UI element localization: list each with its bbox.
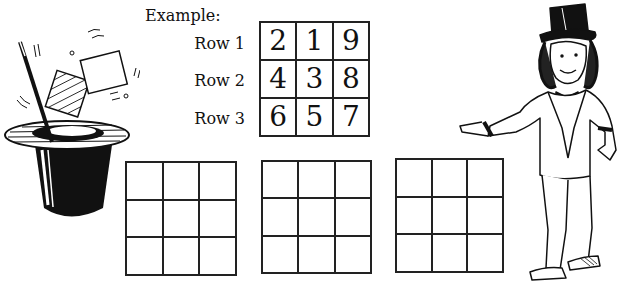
grid-cell[interactable] — [298, 161, 334, 198]
magic-hat-wand-cards-icon — [0, 20, 140, 225]
example-cell: 9 — [333, 22, 369, 60]
example-grid: 2 1 9 4 3 8 6 5 7 — [259, 21, 370, 137]
grid-cell[interactable] — [199, 200, 236, 238]
grid-cell[interactable] — [126, 200, 163, 238]
grid-cell[interactable] — [163, 200, 200, 238]
grid-cell[interactable] — [298, 236, 334, 273]
grid-cell[interactable] — [335, 161, 371, 198]
grid-cell[interactable] — [262, 198, 298, 235]
grid-cell[interactable] — [335, 236, 371, 273]
example-cell: 8 — [333, 60, 369, 98]
grid-cell[interactable] — [199, 237, 236, 275]
grid-cell[interactable] — [396, 234, 432, 272]
grid-cell[interactable] — [262, 161, 298, 198]
magician-top-hat-tuxedo-icon — [455, 0, 619, 287]
example-cell: 4 — [260, 60, 296, 98]
empty-grid-1 — [125, 161, 237, 276]
example-label: Example: — [145, 6, 221, 25]
example-cell: 3 — [296, 60, 332, 98]
example-cell: 6 — [260, 98, 296, 136]
empty-grid-2 — [261, 160, 372, 274]
row-label-3: Row 3 — [185, 109, 245, 128]
grid-cell[interactable] — [126, 162, 163, 200]
grid-cell[interactable] — [335, 198, 371, 235]
grid-cell[interactable] — [396, 197, 432, 235]
grid-cell[interactable] — [262, 236, 298, 273]
grid-cell[interactable] — [298, 198, 334, 235]
example-cell: 5 — [296, 98, 332, 136]
example-cell: 2 — [260, 22, 296, 60]
row-label-2: Row 2 — [185, 71, 245, 90]
grid-cell[interactable] — [126, 237, 163, 275]
grid-cell[interactable] — [396, 159, 432, 197]
grid-cell[interactable] — [199, 162, 236, 200]
grid-cell[interactable] — [163, 162, 200, 200]
grid-cell[interactable] — [163, 237, 200, 275]
example-cell: 1 — [296, 22, 332, 60]
example-cell: 7 — [333, 98, 369, 136]
row-label-1: Row 1 — [185, 34, 245, 53]
